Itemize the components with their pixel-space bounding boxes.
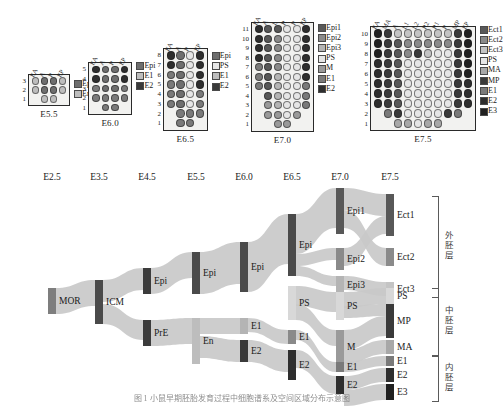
sankey-node-Ect2[interactable] <box>386 248 394 266</box>
sankey-node-label-E160: E1 <box>251 321 262 331</box>
sankey-node-PS75[interactable] <box>386 288 394 304</box>
legend-label-Ect3: Ect3 <box>488 46 503 54</box>
sankey-node-Epi55[interactable] <box>192 252 200 294</box>
flow-Epi65-to-Epi3 <box>296 266 336 286</box>
sankey-node-label-MOR: MOR <box>59 296 81 306</box>
sankey-node-Epi2[interactable] <box>336 248 344 270</box>
sankey-stage-E5.5: E5.5 <box>170 172 222 182</box>
legend-label-E3: E3 <box>488 107 497 115</box>
sankey-node-label-E265: E2 <box>299 360 310 370</box>
sankey-node-E175[interactable] <box>386 356 394 366</box>
sankey-node-label-Epi65: Epi <box>299 240 312 250</box>
legend-label-E1: E1 <box>488 87 497 95</box>
legend-label-MA: MA <box>488 66 501 74</box>
sankey-node-label-Ect1: Ect1 <box>397 210 414 220</box>
sankey-node-label-Epi45: Epi <box>154 276 167 286</box>
legend-label-E2: E2 <box>488 97 497 105</box>
sankey-node-label-Epi1: Epi1 <box>347 206 365 216</box>
sankey-node-Epi65[interactable] <box>288 214 296 276</box>
legend-label-PS: PS <box>488 56 497 64</box>
sankey-node-label-En55: En <box>203 336 214 346</box>
sankey-node-label-PS70: PS <box>347 301 358 311</box>
sankey-stage-E6.0: E6.0 <box>218 172 270 182</box>
sankey-node-E260[interactable] <box>240 340 248 362</box>
sankey-node-label-MP75: MP <box>397 316 411 326</box>
germ-layer-label-2: 内胚层 <box>442 363 454 393</box>
germ-layer-label-1: 中胚层 <box>442 306 454 336</box>
sankey-node-label-E275: E2 <box>397 370 408 380</box>
sankey-node-Epi1[interactable] <box>336 188 344 234</box>
legend-label-Ect2: Ect2 <box>488 36 503 44</box>
sankey-stage-E3.5: E3.5 <box>73 172 125 182</box>
sankey-node-E165[interactable] <box>288 330 296 344</box>
sankey-node-label-Epi60: Epi <box>251 262 264 272</box>
legend-label-MP: MP <box>488 77 500 85</box>
sankey-node-label-E170: E1 <box>347 362 358 372</box>
flow-E265-to-E270 <box>296 350 336 394</box>
flow-E260-to-E265 <box>248 340 288 372</box>
sankey-node-E170[interactable] <box>336 362 344 372</box>
sankey-node-label-E260: E2 <box>251 346 262 356</box>
sankey-node-PrE45[interactable] <box>143 320 151 346</box>
sankey-stage-E6.5: E6.5 <box>266 172 318 182</box>
sankey-stage-E4.5: E4.5 <box>121 172 173 182</box>
sankey-node-ICM[interactable] <box>95 280 103 324</box>
sankey-node-label-Epi55: Epi <box>203 268 216 278</box>
sankey-stage-E7.5: E7.5 <box>364 172 416 182</box>
sankey-node-E160[interactable] <box>240 318 248 334</box>
legend-label-Ect1: Ect1 <box>488 26 503 34</box>
germ-layer-bracket <box>432 288 439 356</box>
sankey-node-label-E270: E2 <box>347 380 358 390</box>
flow-Epi45-to-Epi55 <box>151 252 192 294</box>
sankey-node-label-PS75: PS <box>397 291 408 301</box>
sankey-node-E275[interactable] <box>386 368 394 382</box>
sankey-stage-E7.0: E7.0 <box>314 172 366 182</box>
sankey-node-label-Epi3: Epi3 <box>347 280 365 290</box>
sankey-node-E265[interactable] <box>288 350 296 380</box>
sankey-node-Ect1[interactable] <box>386 194 394 236</box>
germ-layer-bracket <box>432 196 439 298</box>
sankey-node-label-Ect2: Ect2 <box>397 252 414 262</box>
sankey-node-label-E165: E1 <box>299 332 310 342</box>
sankey-node-Epi60[interactable] <box>240 242 248 292</box>
sankey-node-PS65[interactable] <box>288 286 296 320</box>
sankey-node-MA75[interactable] <box>386 340 394 354</box>
flow-Epi60-to-Epi65 <box>248 214 288 292</box>
sankey-node-label-PrE45: PrE <box>154 328 168 338</box>
sankey-node-PS70[interactable] <box>336 292 344 320</box>
sankey-node-label-Epi2: Epi2 <box>347 254 365 264</box>
sankey-node-label-E175: E1 <box>397 356 408 366</box>
flow-En55-to-E160 <box>200 318 240 334</box>
flow-ICM-to-PrE45 <box>103 304 143 340</box>
sankey-node-label-PS65: PS <box>299 298 310 308</box>
sankey-node-label-ICM: ICM <box>106 297 124 307</box>
germ-layer-label-0: 外胚层 <box>442 231 454 261</box>
sankey-stage-E2.5: E2.5 <box>26 172 78 182</box>
sankey-node-MOR[interactable] <box>48 288 56 314</box>
sankey-node-label-MA75: MA <box>397 342 412 352</box>
sankey-node-label-M70: M <box>347 342 355 352</box>
sankey-node-MP75[interactable] <box>386 304 394 338</box>
sankey-node-Epi45[interactable] <box>143 268 151 294</box>
sankey-node-En55[interactable] <box>192 318 200 364</box>
sankey-node-M70[interactable] <box>336 330 344 364</box>
figure-caption: 图 1 小鼠早期胚胎发育过程中细胞谱系及空间区域分布示意图 <box>0 392 483 403</box>
